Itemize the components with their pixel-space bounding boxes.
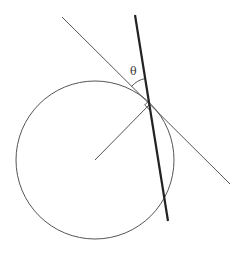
theta-arc: [132, 79, 146, 87]
geometry-diagram: [0, 0, 242, 254]
theta-label: θ: [130, 66, 137, 77]
radius-line: [95, 105, 149, 160]
tangent-line: [62, 17, 230, 184]
